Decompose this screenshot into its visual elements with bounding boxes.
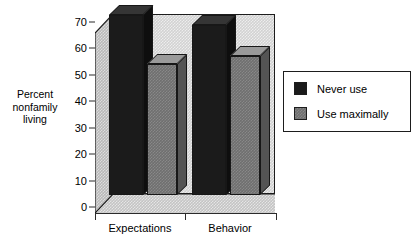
- bar-expectations-never-use[interactable]: [109, 15, 143, 195]
- bar-expectations-use-maximally[interactable]: [147, 64, 177, 195]
- y-axis-label: Percent nonfamily living: [4, 88, 66, 126]
- y-axis-label-line-1: Percent: [4, 88, 66, 101]
- chart-legend: Never use Use maximally: [283, 71, 411, 132]
- legend-swatch-never-use: [294, 82, 307, 95]
- legend-label-never-use: Never use: [317, 83, 367, 95]
- y-tick-label-0: 0: [63, 202, 87, 213]
- bar-front-face: [109, 15, 143, 195]
- bar-front-face: [192, 25, 226, 195]
- bar-front-face: [230, 56, 260, 195]
- legend-swatch-use-maximally: [294, 107, 307, 120]
- y-tick-label-60: 60: [63, 43, 87, 54]
- x-tick-mark-middle: [185, 213, 186, 220]
- bar-behavior-use-maximally[interactable]: [230, 56, 260, 195]
- bar-side-face: [260, 46, 270, 195]
- x-axis-label-behavior: Behavior: [208, 222, 251, 234]
- legend-label-use-maximally: Use maximally: [317, 108, 389, 120]
- bar-chart-figure: Percent nonfamily living 70 60 50 40 30 …: [0, 0, 419, 245]
- bar-front-face: [147, 64, 177, 195]
- y-tick-label-20: 20: [63, 149, 87, 160]
- legend-item-use-maximally[interactable]: Use maximally: [294, 107, 389, 120]
- y-tick-label-40: 40: [63, 96, 87, 107]
- y-axis-label-line-3: living: [4, 113, 66, 126]
- bar-behavior-never-use[interactable]: [192, 25, 226, 195]
- x-axis-label-expectations: Expectations: [109, 222, 172, 234]
- y-tick-label-30: 30: [63, 122, 87, 133]
- x-tick-mark-right: [276, 213, 277, 220]
- x-tick-mark-left: [95, 213, 96, 220]
- y-tick-label-10: 10: [63, 175, 87, 186]
- plot-area: [95, 14, 275, 214]
- y-tick-label-70: 70: [63, 17, 87, 28]
- y-axis-tick-labels: 70 60 50 40 30 20 10 0: [63, 0, 87, 245]
- y-tick-label-50: 50: [63, 69, 87, 80]
- y-axis-label-line-2: nonfamily: [4, 101, 66, 114]
- bar-side-face: [177, 54, 187, 195]
- legend-item-never-use[interactable]: Never use: [294, 82, 367, 95]
